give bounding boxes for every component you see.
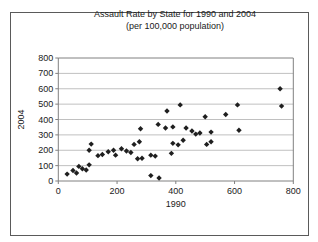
scatter-point bbox=[202, 114, 207, 119]
scatter-point bbox=[183, 125, 188, 130]
scatter-point bbox=[138, 126, 143, 131]
scatter-point bbox=[148, 152, 153, 157]
scatter-point bbox=[180, 138, 185, 143]
scatter-point bbox=[223, 112, 228, 117]
scatter-point bbox=[204, 142, 209, 147]
y-tick-label: 200 bbox=[38, 145, 53, 155]
chart-image: Assault Rate by State for 1990 and 2004 … bbox=[0, 0, 318, 242]
scatter-point bbox=[86, 148, 91, 153]
scatter-point bbox=[170, 124, 175, 129]
y-tick-label: 400 bbox=[38, 115, 53, 125]
scatter-point bbox=[235, 102, 240, 107]
scatter-point bbox=[100, 152, 105, 157]
scatter-point bbox=[178, 102, 183, 107]
x-tick-label: 200 bbox=[110, 186, 125, 196]
y-tick-label: 300 bbox=[38, 130, 53, 140]
scatter-point bbox=[153, 153, 158, 158]
scatter-point bbox=[208, 139, 213, 144]
scatter-point bbox=[64, 171, 69, 176]
x-tick-label: 800 bbox=[286, 186, 301, 196]
scatter-point bbox=[95, 153, 100, 158]
y-tick-label: 600 bbox=[38, 84, 53, 94]
scatter-point bbox=[89, 141, 94, 146]
scatter-point bbox=[113, 152, 118, 157]
scatter-plot: 0100200300400500600700800020040060080019… bbox=[0, 0, 318, 242]
scatter-point bbox=[189, 128, 194, 133]
x-tick-label: 600 bbox=[227, 186, 242, 196]
scatter-point bbox=[139, 156, 144, 161]
y-tick-label: 0 bbox=[48, 176, 53, 186]
scatter-point bbox=[208, 129, 213, 134]
x-tick-label: 400 bbox=[168, 186, 183, 196]
scatter-point bbox=[175, 142, 180, 147]
scatter-point bbox=[169, 151, 174, 156]
scatter-point bbox=[155, 122, 160, 127]
scatter-point bbox=[135, 156, 140, 161]
scatter-point bbox=[137, 139, 142, 144]
scatter-point bbox=[193, 131, 198, 136]
scatter-point bbox=[86, 162, 91, 167]
scatter-point bbox=[148, 173, 153, 178]
scatter-point bbox=[236, 128, 241, 133]
scatter-point bbox=[124, 148, 129, 153]
scatter-point bbox=[111, 148, 116, 153]
scatter-point bbox=[170, 141, 175, 146]
scatter-point bbox=[131, 142, 136, 147]
scatter-point bbox=[156, 175, 161, 180]
scatter-point bbox=[164, 108, 169, 113]
y-tick-label: 700 bbox=[38, 68, 53, 78]
y-axis-label: 2004 bbox=[16, 109, 26, 129]
scatter-point bbox=[277, 86, 282, 91]
y-tick-label: 500 bbox=[38, 99, 53, 109]
y-tick-label: 100 bbox=[38, 161, 53, 171]
x-axis-label: 1990 bbox=[166, 199, 186, 209]
scatter-point bbox=[163, 125, 168, 130]
x-tick-label: 0 bbox=[56, 186, 61, 196]
y-tick-label: 800 bbox=[38, 53, 53, 63]
